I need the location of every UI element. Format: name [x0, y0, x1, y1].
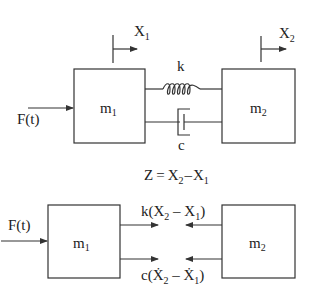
relative-displacement-equation: Z=X2–X1	[144, 167, 209, 186]
damper-force-label: c(Ẋ2 – Ẋ1)	[141, 267, 204, 285]
x2-displacement-marker: X2	[261, 25, 295, 62]
free-body-diagram: m1 m2 F(t) k(X2 – X1) c(Ẋ2 – Ẋ1)	[1, 203, 295, 285]
damper-label: c	[178, 137, 185, 153]
x1-displacement-marker: X1	[113, 23, 150, 63]
damper: c	[145, 109, 222, 153]
top-system: X1 X2 m1 m2 F(t) k c	[17, 23, 295, 153]
spring-force-label: k(X2 – X1)	[141, 203, 205, 222]
fbd-force-label: F(t)	[8, 217, 31, 234]
force-label: F(t)	[17, 111, 40, 128]
x2-label: X2	[279, 25, 295, 44]
spring: k	[145, 58, 222, 94]
two-mass-spring-damper-diagram: X1 X2 m1 m2 F(t) k c	[0, 0, 311, 285]
spring-label: k	[177, 58, 185, 74]
x1-label: X1	[134, 23, 150, 42]
